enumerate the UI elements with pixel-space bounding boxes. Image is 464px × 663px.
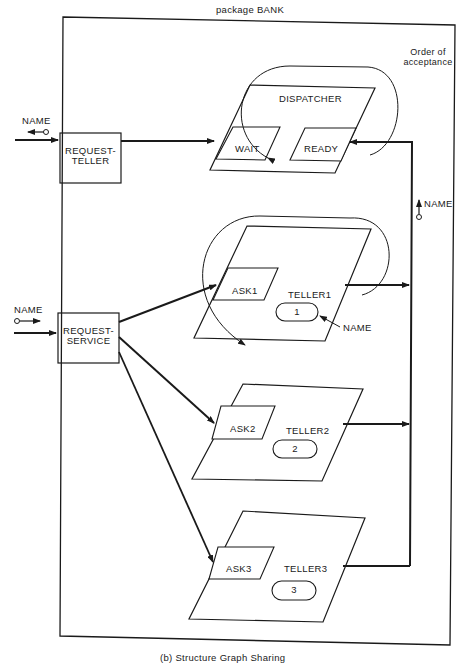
teller1-label: TELLER1 [288, 290, 331, 300]
wait-label[interactable]: WAIT [235, 144, 260, 154]
request-service-label: REQUEST- SERVICE [58, 326, 119, 347]
request-teller-line2: TELLER [60, 156, 121, 166]
ask2-label[interactable]: ASK2 [230, 424, 256, 434]
name-pointer [320, 316, 340, 327]
teller2-label: TELLER2 [286, 426, 329, 436]
request-teller-param-label: NAME [22, 116, 51, 126]
ready-label[interactable]: READY [304, 144, 338, 154]
ask1-label[interactable]: ASK1 [232, 286, 258, 296]
teller-output-param-label: NAME [424, 199, 453, 209]
package-title: package BANK [216, 5, 284, 15]
order-of-acceptance-label: Order of acceptance [398, 48, 458, 68]
request-service-to-ask1 [119, 285, 216, 322]
teller1-name-label: NAME [343, 323, 372, 333]
ready-return-path [350, 142, 412, 566]
request-service-to-ask3 [119, 352, 213, 562]
dispatcher-label: DISPATCHER [279, 94, 342, 104]
teller-output-param-icon [417, 200, 422, 220]
teller2-name-value: 2 [273, 444, 317, 454]
request-teller-param-icon [15, 130, 58, 141]
request-service-param-label: NAME [14, 305, 43, 315]
request-teller-label: REQUEST- TELLER [60, 146, 121, 167]
ask3-label[interactable]: ASK3 [226, 564, 252, 574]
teller3-label: TELLER3 [284, 564, 327, 574]
figure-caption: (b) Structure Graph Sharing [160, 652, 285, 663]
request-service-line2: SERVICE [58, 336, 119, 346]
teller1-name-value: 1 [276, 307, 318, 317]
request-service-param-icon [14, 319, 56, 334]
order-label-line2: acceptance [398, 58, 458, 68]
request-service-to-ask2 [119, 337, 214, 423]
teller3-name-value: 3 [272, 585, 316, 595]
